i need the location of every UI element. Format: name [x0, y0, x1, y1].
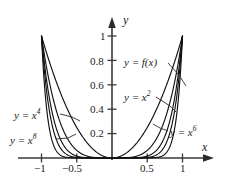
y-tick-label-0-6: 0.6 — [90, 79, 104, 91]
annotation-y-equals-x-squared: y = x2 — [124, 89, 150, 103]
callout-leader-lines — [56, 63, 186, 139]
annotation-y-equals-x-fourth: y = x4 — [14, 107, 40, 121]
x-axis-label: x — [202, 140, 207, 155]
x-tick-label-neg1: −1 — [34, 162, 46, 174]
y-tick-label-1: 1 — [100, 30, 106, 42]
y-tick-label-0-2: 0.2 — [90, 127, 104, 139]
annotation-y-equals-x-eighth: y = x8 — [10, 132, 36, 146]
annotation-x2-text: y = x — [124, 91, 147, 103]
y-tick-label-0-8: 0.8 — [90, 55, 104, 67]
y-axis-label: y — [123, 13, 128, 28]
x-axis-arrow-icon — [203, 154, 214, 162]
figure-container: y x −1 −0.5 0.5 1 0.2 0.4 0.6 0.8 1 y = … — [0, 0, 227, 188]
annotation-fx-text: y = f(x) — [124, 56, 157, 68]
annotation-x6-text: y = x — [170, 126, 193, 138]
x-tick-label-0-5: 0.5 — [140, 162, 154, 174]
annotation-x8-text: y = x — [10, 134, 33, 146]
annotation-x4-text: y = x — [14, 109, 37, 121]
x-tick-label-neg0-5: −0.5 — [62, 162, 82, 174]
axes-layer — [18, 17, 214, 163]
annotation-x6-exponent: 6 — [193, 124, 197, 133]
y-tick-label-0-4: 0.4 — [90, 103, 104, 115]
annotation-y-equals-f-of-x: y = f(x) — [124, 56, 157, 68]
plot-canvas — [0, 0, 227, 188]
annotation-x2-exponent: 2 — [147, 89, 151, 98]
x-tick-label-1: 1 — [180, 162, 186, 174]
annotation-y-equals-x-sixth: y = x6 — [170, 124, 196, 138]
annotation-x8-exponent: 8 — [33, 132, 37, 141]
annotation-x4-exponent: 4 — [37, 107, 41, 116]
y-axis-arrow-icon — [108, 17, 116, 28]
